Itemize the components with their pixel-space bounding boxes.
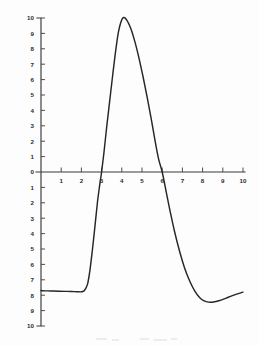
y-tick-label: 9	[31, 307, 35, 314]
x-tick-label: 8	[201, 177, 205, 184]
y-tick-label: 8	[31, 292, 35, 299]
y-tick-label: 9	[31, 30, 35, 37]
y-tick-label: 10	[27, 322, 34, 329]
x-tick-label: 4	[120, 177, 124, 184]
y-tick-label: 8	[31, 45, 35, 52]
x-tick-label: 5	[140, 177, 144, 184]
line-chart: 10987654321012345678910 12345678910	[0, 0, 259, 346]
y-tick-label: 2	[31, 199, 35, 206]
y-tick-label: 3	[31, 215, 35, 222]
y-tick-label: 6	[31, 76, 35, 83]
y-tick-label: 5	[31, 91, 35, 98]
x-tick-label: 1	[59, 177, 63, 184]
y-tick-label: 2	[31, 138, 35, 145]
x-tick-label: 7	[181, 177, 185, 184]
x-tick-label: 9	[221, 177, 225, 184]
chart-background	[0, 0, 259, 346]
y-tick-label: 4	[31, 107, 35, 114]
y-tick-label: 10	[27, 14, 34, 21]
y-tick-label: 4	[31, 230, 35, 237]
y-tick-label: 0	[31, 168, 35, 175]
y-tick-label: 6	[31, 261, 35, 268]
y-tick-label: 5	[31, 245, 35, 252]
y-tick-label: 1	[31, 184, 35, 191]
y-tick-label: 3	[31, 122, 35, 129]
figure-root: 10987654321012345678910 12345678910	[0, 0, 259, 346]
y-tick-label: 7	[31, 61, 35, 68]
x-tick-label: 10	[240, 177, 247, 184]
y-tick-label: 1	[31, 153, 35, 160]
x-tick-label: 2	[80, 177, 84, 184]
y-tick-label: 7	[31, 276, 35, 283]
